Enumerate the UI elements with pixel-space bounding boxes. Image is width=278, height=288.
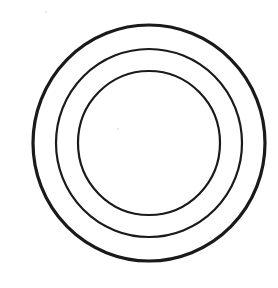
scan-speck [117,128,119,130]
scan-speck [45,11,47,13]
concentric-circles-diagram [0,0,278,288]
background [0,0,278,288]
